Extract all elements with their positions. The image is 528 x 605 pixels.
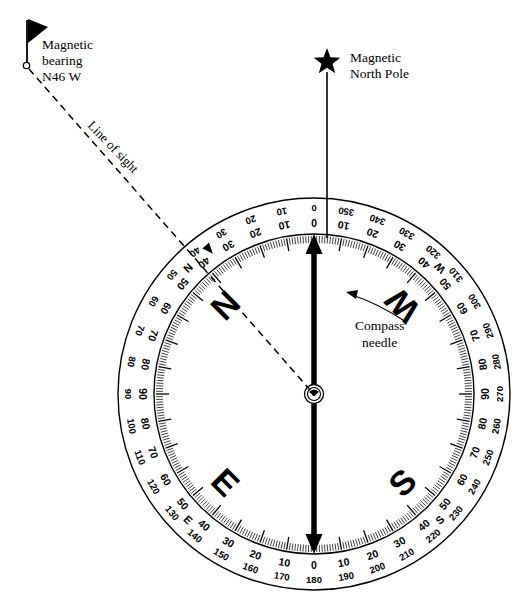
magnetic-north-pole-label: MagneticNorth Pole [350,50,409,81]
flag-label-line2: bearing [42,53,83,68]
compass-needle-label-line1: Compass [355,318,405,333]
flag-label-line3: N46 W [42,69,81,84]
dial-outer-degree-label: 80 [125,356,138,368]
dial-inner-degree-label: 80 [475,417,489,431]
dial-inner-degree-label: 0 [311,217,317,229]
dial-inner-degree-label: 80 [139,358,153,372]
dial-inner-degree-label: 0 [311,559,317,571]
dial-outer-degree-label: 90 [123,389,134,400]
dial-inner-degree-label: 10 [277,219,291,233]
dial-outer-degree-label: 10 [276,205,288,218]
dial-inner-degree-label: 10 [337,555,351,569]
flag-station-point [23,62,29,68]
dial-inner-degree-label: 90 [137,388,149,400]
dial-inner-degree-label: 80 [475,357,489,371]
dial-outer-degree-label: 0 [311,203,316,214]
flag-label-line1: Magnetic [42,37,93,52]
dial-inner-degree-label: 10 [278,555,292,569]
figure-canvas: 0102030405060708090100110120130140150160… [0,0,528,605]
dial-outer-degree-label: 180 [306,574,322,585]
magnetic-north-pole-label-line2: North Pole [350,66,409,81]
dial-inner-degree-label: 90 [479,388,491,400]
dial-outer-degree-label: 270 [494,386,505,402]
compass-diagram-svg: 0102030405060708090100110120130140150160… [0,0,528,605]
compass-pivot-dot [312,392,316,396]
magnetic-north-pole-label-line1: Magnetic [350,50,401,65]
dial-inner-degree-label: 10 [337,219,351,233]
dial-inner-degree-label: 80 [139,417,153,431]
compass-needle-label-line2: needle [362,335,397,350]
